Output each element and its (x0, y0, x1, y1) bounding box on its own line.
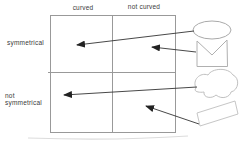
column-header-curved: curved (61, 4, 105, 11)
arrow-parallelogram-to-notcurved-notsymmetrical (146, 106, 199, 124)
arrow-envelope-to-notcurved-symmetrical (152, 47, 196, 52)
mapping-arrows (64, 31, 199, 124)
column-header-not-curved: not curved (114, 3, 174, 10)
diagram-canvas (0, 0, 240, 142)
envelope-shape-icon (197, 40, 228, 67)
arrow-ellipse-to-curved-symmetrical (77, 31, 194, 45)
arrow-cloud-to-curved-notsymmetrical (64, 87, 197, 95)
classification-diagram: curved not curved symmetrical not symmet… (0, 0, 240, 142)
row-header-not-symmetrical: not symmetrical (5, 92, 45, 106)
matrix-grid (48, 16, 176, 133)
scan-shadow (28, 136, 188, 139)
parallelogram-shape-icon (197, 101, 238, 126)
ellipse-shape-icon (193, 21, 231, 39)
cloud-shape-icon (195, 69, 238, 97)
row-header-symmetrical: symmetrical (7, 39, 49, 46)
